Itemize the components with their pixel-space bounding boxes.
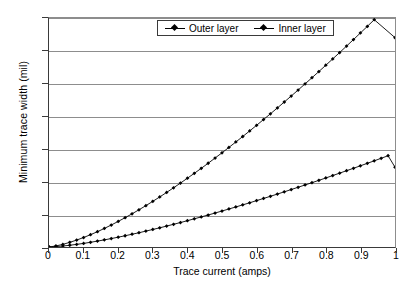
x-axis-tick-mark [48,248,49,253]
legend-label: Outer layer [189,23,238,34]
x-axis-tick-mark [187,248,188,253]
data-point-marker [331,174,335,178]
data-point-marker [206,213,210,217]
data-point-marker [151,228,155,232]
data-point-marker [241,203,245,207]
x-axis-tick-mark [152,248,153,253]
data-point-marker [324,176,328,180]
data-point-marker [365,161,369,165]
x-axis-tick-mark [396,248,397,253]
data-point-marker [386,154,390,158]
data-point-marker [102,238,106,242]
data-point-marker [282,190,286,194]
legend-entry-outer-layer: Outer layer [165,23,238,34]
data-point-marker [165,224,169,228]
legend-label: Inner layer [278,23,325,34]
series-line [49,20,395,247]
data-point-marker [248,201,252,205]
data-point-marker [137,208,141,212]
data-point-marker [116,235,120,239]
chart-figure: Minimum trace width (mil) 05101520253035… [0,0,402,289]
data-point-marker [317,178,321,182]
legend-entry-inner-layer: Inner layer [254,23,325,34]
data-point-marker [89,240,93,244]
data-point-marker [116,220,120,224]
data-point-marker [345,169,349,173]
data-point-marker [82,242,86,246]
data-point-marker [372,159,376,163]
data-point-marker [352,166,356,170]
x-axis-tick-mark [257,248,258,253]
data-point-marker [75,238,79,242]
data-point-marker [68,240,72,244]
series-line [49,156,395,247]
data-point-marker [234,205,238,209]
data-point-marker [289,188,293,192]
x-axis-tick-mark [292,248,293,253]
y-axis-title: Minimum trace width (mil) [17,37,29,207]
data-point-marker [137,231,141,235]
data-point-marker [296,185,300,189]
data-point-marker [130,212,134,216]
data-point-marker [379,156,383,160]
data-point-marker [144,229,148,233]
data-point-marker [338,171,342,175]
x-axis-tick-mark [83,248,84,253]
data-point-marker [199,215,203,219]
diamond-marker-icon [165,24,185,33]
data-point-marker [123,234,127,238]
data-series-layer [49,18,395,247]
data-point-marker [310,181,314,185]
x-axis-title: Trace current (amps) [48,265,396,277]
x-axis-tick-mark [361,248,362,253]
data-point-marker [158,226,162,230]
data-point-marker [213,211,217,215]
data-point-marker [255,199,259,203]
data-point-marker [96,239,100,243]
data-point-marker [359,164,363,168]
x-axis-tick-mark [222,248,223,253]
data-point-marker [269,194,273,198]
data-point-marker [179,221,183,225]
data-point-marker [172,222,176,226]
data-point-marker [96,230,100,234]
data-point-marker [227,207,231,211]
data-point-marker [75,242,79,246]
data-point-marker [109,237,113,241]
data-point-marker [109,223,113,227]
diamond-marker-icon [254,24,274,33]
chart-legend: Outer layer Inner layer [157,20,334,36]
data-point-marker [102,227,106,231]
plot-area [48,17,396,248]
data-point-marker [89,233,93,237]
x-axis-tick-mark [326,248,327,253]
data-point-marker [123,216,127,220]
x-axis-tick-label: 1 [381,250,402,261]
data-point-marker [275,192,279,196]
x-axis-tick-mark [118,248,119,253]
data-point-marker [130,232,134,236]
data-point-marker [186,219,190,223]
data-point-marker [262,197,266,201]
data-point-marker [220,209,224,213]
data-point-marker [303,183,307,187]
series-outer-layer [49,154,395,247]
data-point-marker [82,236,86,240]
data-point-marker [192,217,196,221]
